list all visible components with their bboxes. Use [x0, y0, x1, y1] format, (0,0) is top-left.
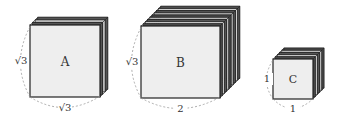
- cube-stacks-diagram: A√3√3B√32C11: [0, 0, 340, 124]
- width-label: 2: [177, 103, 183, 114]
- height-label: √3: [126, 56, 139, 67]
- figure-b: B√32: [126, 6, 240, 115]
- width-label: √3: [59, 102, 72, 113]
- height-label: √3: [15, 55, 28, 66]
- figure-label: C: [289, 73, 297, 86]
- figure-label: A: [60, 55, 70, 69]
- figure-c: C11: [261, 48, 324, 115]
- figure-label: B: [176, 56, 185, 70]
- height-label: 1: [264, 73, 270, 84]
- figure-a: A√3√3: [15, 17, 108, 114]
- width-label: 1: [290, 103, 296, 114]
